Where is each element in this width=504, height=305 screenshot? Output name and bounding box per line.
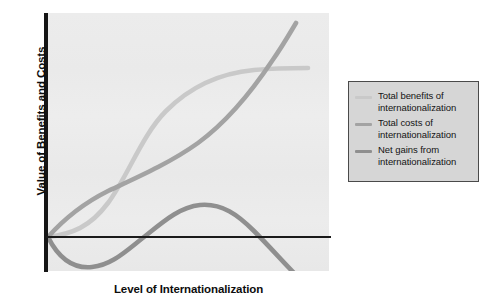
x-axis-line: [46, 236, 331, 238]
legend-label-line1: Net gains from: [378, 144, 439, 155]
legend-label-net-gains: Net gains from internationalization: [378, 144, 472, 167]
plot-area: [46, 13, 329, 271]
plot-curves: [46, 13, 329, 271]
legend-label-line2: internationalization: [378, 156, 456, 167]
legend-label-line1: Total costs of: [378, 117, 433, 128]
legend-label-total-costs: Total costs of internationalization: [378, 117, 472, 140]
legend-swatch-net-gains: [355, 150, 372, 153]
legend-item-total-benefits: Total benefits of internationalization: [355, 90, 472, 113]
chart-figure: Value of Benefits and Costs Level of Int…: [0, 0, 504, 305]
legend-label-line2: internationalization: [378, 129, 456, 140]
legend-item-total-costs: Total costs of internationalization: [355, 117, 472, 140]
legend-label-line2: internationalization: [378, 102, 456, 113]
legend-label-line1: Total benefits of: [378, 90, 444, 101]
legend-label-total-benefits: Total benefits of internationalization: [378, 90, 472, 113]
legend-swatch-total-benefits: [355, 96, 372, 99]
chart-legend: Total benefits of internationalization T…: [348, 81, 479, 182]
x-axis-title: Level of Internationalization: [46, 283, 331, 295]
legend-swatch-total-costs: [355, 123, 372, 126]
y-axis-title: Value of Benefits and Costs: [35, 6, 47, 236]
legend-item-net-gains: Net gains from internationalization: [355, 144, 472, 167]
curve-total-costs: [48, 23, 296, 237]
